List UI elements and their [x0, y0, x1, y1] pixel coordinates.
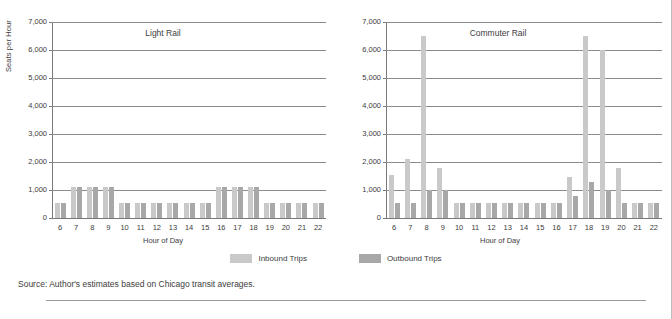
bar-group-hour-18 — [246, 22, 262, 218]
bar-group-hour-15 — [532, 22, 548, 218]
bar-group-hour-7 — [402, 22, 418, 218]
bar-outbound-hour-19 — [270, 203, 275, 218]
x-tick-label-17: 17 — [565, 222, 581, 234]
y-tick-label-0: 0 — [377, 214, 381, 222]
legend-item: Outbound Trips — [359, 254, 442, 263]
bar-group-hour-9 — [100, 22, 116, 218]
bar-inbound-hour-13 — [502, 203, 507, 218]
charts-row: Seats per Hour Light Rail 01,0002,0003,0… — [0, 8, 672, 260]
bar-outbound-hour-11 — [141, 203, 146, 218]
chart-panel-light-rail: Seats per Hour Light Rail 01,0002,0003,0… — [0, 8, 336, 260]
bar-outbound-hour-13 — [508, 203, 513, 218]
x-axis-title-right: Hour of Day — [362, 236, 638, 245]
bar-group-hour-6 — [52, 22, 68, 218]
legend-swatch-inbound — [230, 254, 252, 263]
y-tick-label-7000: 7,000 — [28, 18, 47, 26]
source-note: Source: Author's estimates based on Chic… — [18, 279, 255, 289]
x-tick-label-6: 6 — [386, 222, 402, 234]
y-tick-mark-0 — [49, 218, 52, 219]
bar-series-group — [52, 22, 326, 218]
x-tick-label-12: 12 — [149, 222, 165, 234]
bar-inbound-hour-6 — [389, 175, 394, 218]
bar-group-hour-16 — [548, 22, 564, 218]
x-tick-label-16: 16 — [213, 222, 229, 234]
bar-outbound-hour-6 — [395, 203, 400, 218]
legend-label: Inbound Trips — [258, 254, 306, 263]
bar-outbound-hour-11 — [476, 203, 481, 218]
x-axis-ticks-light-rail: 678910111213141516171819202122 — [52, 222, 326, 234]
bar-outbound-hour-10 — [125, 203, 130, 218]
bar-outbound-hour-9 — [443, 190, 448, 218]
bar-inbound-hour-12 — [486, 203, 491, 218]
bar-group-hour-16 — [213, 22, 229, 218]
x-tick-label-8: 8 — [418, 222, 434, 234]
bar-group-hour-17 — [229, 22, 245, 218]
gridline-0 — [52, 218, 326, 219]
x-tick-label-7: 7 — [402, 222, 418, 234]
bar-outbound-hour-20 — [286, 203, 291, 218]
x-tick-label-22: 22 — [646, 222, 662, 234]
x-tick-label-20: 20 — [613, 222, 629, 234]
x-tick-label-14: 14 — [516, 222, 532, 234]
bar-group-hour-11 — [133, 22, 149, 218]
bar-inbound-hour-17 — [232, 187, 237, 218]
bar-inbound-hour-21 — [296, 203, 301, 218]
y-axis-title-left: Seats per Hour — [4, 20, 13, 72]
bar-inbound-hour-12 — [151, 203, 156, 218]
bar-outbound-hour-7 — [411, 203, 416, 218]
x-tick-label-19: 19 — [597, 222, 613, 234]
bar-group-hour-21 — [294, 22, 310, 218]
bar-group-hour-13 — [500, 22, 516, 218]
y-tick-label-0: 0 — [43, 214, 47, 222]
chart-panel-commuter-rail: Commuter Rail 01,0002,0003,0004,0005,000… — [336, 8, 672, 260]
bar-inbound-hour-16 — [216, 187, 221, 218]
x-tick-label-13: 13 — [500, 222, 516, 234]
bar-series-group — [386, 22, 662, 218]
bar-outbound-hour-18 — [589, 182, 594, 218]
bar-group-hour-10 — [117, 22, 133, 218]
bar-group-hour-20 — [278, 22, 294, 218]
bar-group-hour-13 — [165, 22, 181, 218]
x-tick-label-10: 10 — [117, 222, 133, 234]
bar-outbound-hour-7 — [77, 187, 82, 218]
bar-group-hour-19 — [597, 22, 613, 218]
x-tick-label-18: 18 — [581, 222, 597, 234]
y-tick-label-3000: 3,000 — [28, 130, 47, 138]
x-tick-label-21: 21 — [630, 222, 646, 234]
bar-group-hour-12 — [483, 22, 499, 218]
bar-inbound-hour-21 — [632, 203, 637, 218]
bar-outbound-hour-9 — [109, 187, 114, 218]
bar-group-hour-15 — [197, 22, 213, 218]
x-tick-label-19: 19 — [262, 222, 278, 234]
x-tick-label-14: 14 — [181, 222, 197, 234]
plot-area-light-rail: 01,0002,0003,0004,0005,0006,0007,000 — [52, 22, 326, 218]
bar-inbound-hour-9 — [103, 187, 108, 218]
x-tick-label-15: 15 — [532, 222, 548, 234]
bar-inbound-hour-11 — [135, 203, 140, 218]
bar-inbound-hour-15 — [535, 203, 540, 218]
bar-inbound-hour-22 — [648, 203, 653, 218]
bar-outbound-hour-13 — [173, 203, 178, 218]
bar-outbound-hour-16 — [557, 203, 562, 218]
bar-group-hour-17 — [565, 22, 581, 218]
x-tick-label-18: 18 — [246, 222, 262, 234]
bar-inbound-hour-22 — [313, 203, 318, 218]
bar-group-hour-14 — [516, 22, 532, 218]
x-tick-label-7: 7 — [68, 222, 84, 234]
x-axis-title-left: Hour of Day — [26, 236, 300, 245]
x-tick-label-11: 11 — [467, 222, 483, 234]
bar-outbound-hour-22 — [319, 203, 324, 218]
bar-inbound-hour-6 — [55, 203, 60, 218]
y-tick-label-4000: 4,000 — [28, 102, 47, 110]
bar-outbound-hour-10 — [460, 203, 465, 218]
bar-inbound-hour-14 — [518, 203, 523, 218]
bar-inbound-hour-15 — [200, 203, 205, 218]
bar-inbound-hour-9 — [437, 168, 442, 218]
bar-outbound-hour-12 — [492, 203, 497, 218]
bar-inbound-hour-10 — [454, 203, 459, 218]
x-tick-label-9: 9 — [435, 222, 451, 234]
bar-inbound-hour-20 — [616, 168, 621, 218]
plot-area-commuter-rail: 01,0002,0003,0004,0005,0006,0007,000 — [386, 22, 662, 218]
bar-inbound-hour-11 — [470, 203, 475, 218]
bar-outbound-hour-16 — [222, 187, 227, 218]
